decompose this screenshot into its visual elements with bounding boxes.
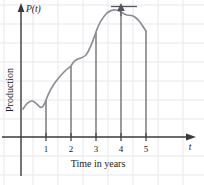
graph-canvas: P(t) Production 1 2 3 4 5 Time in years … [0, 0, 204, 185]
x-tick-label-2: 2 [69, 144, 74, 154]
y-axis-title: Production [4, 68, 15, 112]
x-axis-title: Time in years [71, 158, 126, 169]
x-tick-label-1: 1 [44, 144, 49, 154]
x-axis-variable-label: t [189, 142, 192, 152]
y-axis-function-label: P(t) [25, 4, 41, 15]
x-tick-label-5: 5 [144, 144, 149, 154]
production-graph-figure: P(t) Production 1 2 3 4 5 Time in years … [0, 0, 204, 185]
x-tick-label-3: 3 [94, 144, 99, 154]
x-tick-label-4: 4 [119, 144, 124, 154]
